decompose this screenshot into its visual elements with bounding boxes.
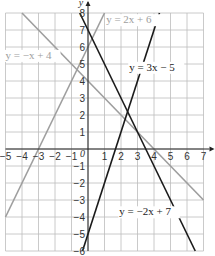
equation-label-4: y = −2x + 7	[119, 205, 171, 217]
equation-label-2: y = 2x + 6	[106, 13, 152, 25]
y-tick-label: 6	[79, 42, 85, 53]
x-tick-label: 7	[201, 151, 207, 162]
y-tick-label: −2	[74, 178, 86, 189]
y-tick-label: −1	[74, 161, 86, 172]
y-tick-label: 7	[79, 25, 85, 36]
y-tick-label: −4	[74, 212, 86, 223]
origin-label: 0	[80, 148, 85, 159]
x-tick-label: −4	[16, 151, 28, 162]
y-tick-label: −5	[74, 229, 86, 240]
x-tick-label: 5	[168, 151, 174, 162]
linear-graphs-chart: −5−4−3−2−11234567−6−5−4−3−2−1123456780y …	[0, 0, 215, 256]
x-tick-label: 3	[135, 151, 141, 162]
x-axis-arrow-icon	[210, 147, 215, 152]
equation-label-3: y = 3x − 5	[129, 61, 175, 73]
y-axis-label: y	[78, 0, 84, 8]
y-tick-label: 5	[79, 59, 85, 70]
y-tick-label: 1	[79, 127, 85, 138]
axes	[6, 1, 215, 251]
y-tick-label: −3	[74, 195, 86, 206]
x-tick-label: 6	[184, 151, 190, 162]
y-tick-label: −6	[74, 246, 86, 256]
equation-label-1: y = −x + 4	[6, 49, 53, 61]
x-tick-label: −3	[33, 151, 45, 162]
y-tick-label: 2	[79, 110, 85, 121]
y-tick-label: 4	[79, 76, 85, 87]
x-tick-label: 1	[102, 151, 108, 162]
x-tick-label: 2	[118, 151, 124, 162]
x-tick-label: 4	[151, 151, 157, 162]
x-tick-label: −5	[0, 151, 12, 162]
series-line-1	[22, 13, 204, 200]
y-tick-label: 3	[79, 93, 85, 104]
y-axis-arrow-icon	[86, 1, 91, 6]
x-tick-label: −2	[49, 151, 61, 162]
y-tick-label: 8	[79, 8, 85, 19]
